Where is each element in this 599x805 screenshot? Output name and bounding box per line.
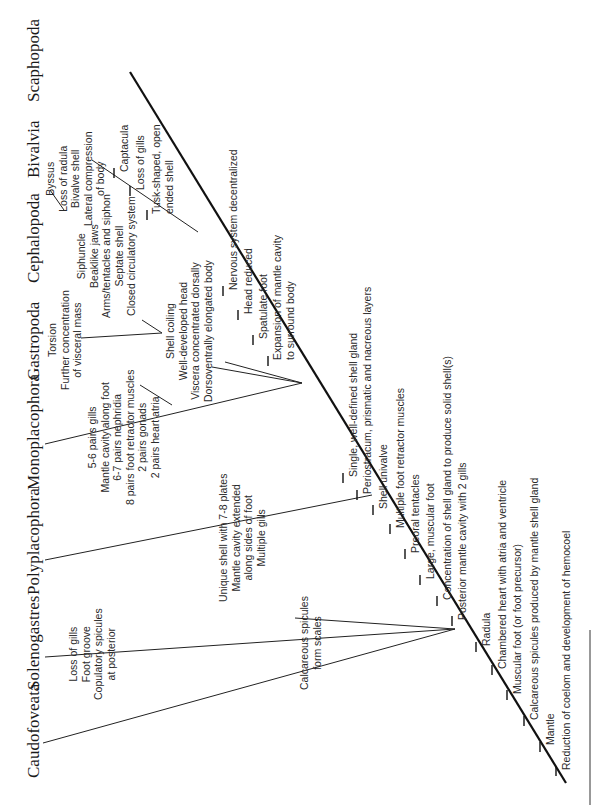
trunk-label: ended shell xyxy=(163,160,176,214)
gastropoda-cephalopoda-shared-characters: Shell coiling Well-developed head Viscer… xyxy=(164,260,214,402)
trunk-label: to surround body xyxy=(284,281,297,360)
branch-gastropoda-cephalopoda xyxy=(212,367,302,383)
taxon-gastropoda: Gastropoda xyxy=(24,302,44,380)
trunk-label: Periostracum, prismatic and nacreous lay… xyxy=(361,287,374,494)
taxon-caudofoveata: Caudofoveata xyxy=(24,684,44,778)
taxon-monoplacophora: Monoplacophora xyxy=(24,374,44,490)
trunk-label: Spatulate foot xyxy=(257,274,270,339)
branch-cephalopoda-shared xyxy=(142,320,162,333)
polyplacophora-characters: Unique shell with 7-8 plates Mantle cavi… xyxy=(217,474,267,602)
taxon-scaphopoda: Scaphopoda xyxy=(24,19,44,102)
branch-gastropoda-shared-pointer xyxy=(225,362,302,383)
taxon-solenogastres: Solenogastres xyxy=(24,596,44,690)
trunk-label: Muscular foot (or foot precursor) xyxy=(511,544,524,694)
trunk-label: Captacula xyxy=(118,125,131,172)
monoplacophora-characters: 5-6 pairs gills Mantle cavity along foot… xyxy=(86,370,162,505)
trunk-label: Multiple foot retractor muscles xyxy=(394,388,407,528)
taxon-cephalopoda: Cephalopoda xyxy=(24,193,44,283)
solenogastres-characters: Loss of gills Foot groove Copulatory spi… xyxy=(67,608,117,700)
trunk-label: Nervous system decentralized xyxy=(227,149,240,290)
trunk-label: Tusk-shaped, open xyxy=(150,124,163,214)
taxon-bivalvia: Bivalvia xyxy=(24,120,44,178)
trunk-label: Mantle xyxy=(544,713,557,745)
trunk-label: Posterior mantle cavity with 2 gills xyxy=(456,462,469,620)
trunk-label: Concentration of shell gland to produce … xyxy=(441,356,454,600)
spicules-scales-block: Calcareous spicules form scales xyxy=(298,596,323,690)
trunk-label: Expansion of mantle cavity xyxy=(271,235,284,360)
trunk-label: Head reduced xyxy=(242,248,255,314)
trunk-label: Calcareous spicules produced by mantle s… xyxy=(528,478,541,720)
bivalvia-characters: Byssus Loss of radula Bivalve shell Late… xyxy=(44,131,107,226)
trunk-label: Single, well-defined shell gland xyxy=(347,333,360,477)
trunk-label: Reduction of coelom and development of h… xyxy=(560,531,573,770)
trunk-label: Chambered heart with atria and ventricle xyxy=(496,480,509,669)
mollusc-cladogram: Caudofoveata Solenogastres Polyplacophor… xyxy=(0,0,599,805)
taxon-polyplacophora: Polyplacophora xyxy=(24,488,44,595)
trunk-label: Large, muscular foot xyxy=(424,483,437,579)
trunk-label: Shell univalve xyxy=(377,444,390,509)
trunk-label: Radula xyxy=(480,613,493,646)
trunk-label: Preoral tentacles xyxy=(409,474,422,553)
trunk-label: Loss of gills xyxy=(134,135,147,190)
branch-gastropoda xyxy=(81,333,162,338)
